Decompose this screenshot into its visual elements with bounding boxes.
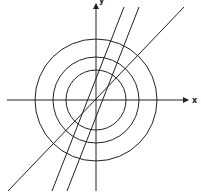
diagram-canvas: x y <box>0 0 201 194</box>
x-axis-label: x <box>192 96 198 105</box>
y-axis-label: y <box>99 0 105 5</box>
line-steep <box>52 7 124 191</box>
line-medium <box>67 7 139 191</box>
